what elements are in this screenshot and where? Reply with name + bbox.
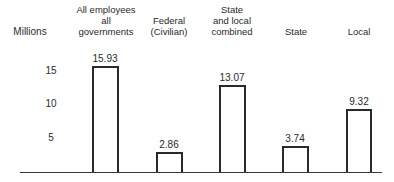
value-label-state-and-local: 13.07	[207, 72, 257, 83]
value-label-local: 9.32	[334, 96, 384, 107]
y-tick-15: 15	[36, 65, 66, 76]
category-label-line: State	[194, 4, 270, 15]
y-tick-10: 10	[36, 98, 66, 109]
y-tick-5: 5	[36, 132, 66, 143]
category-label-local: Local	[321, 26, 394, 37]
value-label-all-governments: 15.93	[80, 53, 130, 64]
category-label-line: Local	[321, 26, 394, 37]
bar-federal	[156, 152, 183, 172]
category-label-line: and local	[194, 15, 270, 26]
value-label-federal: 2.86	[144, 139, 194, 150]
y-axis-label: Millions	[6, 26, 54, 37]
category-label-line: All employees	[68, 4, 144, 15]
value-label-state: 3.74	[270, 133, 320, 144]
bar-local	[346, 109, 372, 172]
bar-state-and-local	[219, 85, 246, 172]
x-axis-baseline	[20, 172, 382, 173]
bar-all-governments	[92, 66, 119, 172]
bar-state	[282, 146, 309, 172]
